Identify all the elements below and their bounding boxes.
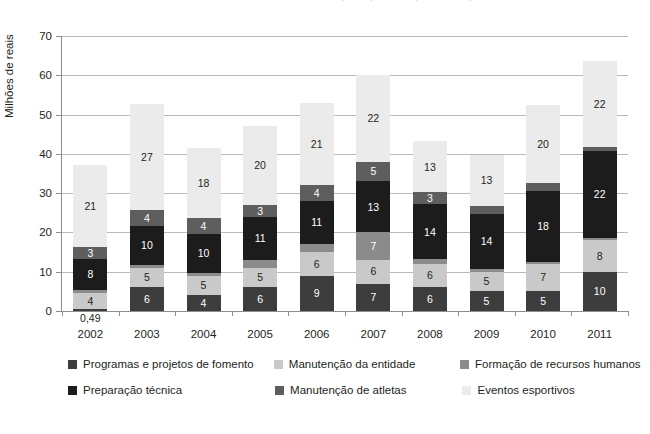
bar-segment[interactable]: 22 xyxy=(583,151,617,237)
x-tick-label-2004: 2004 xyxy=(176,328,232,340)
bar-segment[interactable]: 4 xyxy=(130,210,164,226)
bar-segment[interactable]: 3 xyxy=(73,247,107,259)
legend-label: Eventos esportivos xyxy=(477,384,574,396)
bar-segment[interactable]: 4 xyxy=(73,293,107,309)
bar-segment[interactable]: 13 xyxy=(470,155,504,206)
bar-segment-label: 5 xyxy=(257,272,263,283)
bar-segment-label: 6 xyxy=(144,294,150,305)
x-tick-mark xyxy=(119,311,120,316)
legend-item[interactable]: Preparação técnica xyxy=(68,384,275,396)
bar-segment[interactable]: 7 xyxy=(356,284,390,312)
x-tick-label-2003: 2003 xyxy=(119,328,175,340)
bar-segment[interactable]: 5 xyxy=(470,291,504,311)
bar-segment[interactable]: 4 xyxy=(300,185,334,201)
bar-segment-label: 20 xyxy=(254,160,266,171)
bar-segment[interactable]: 13 xyxy=(356,181,390,232)
bar-segment[interactable]: 27 xyxy=(130,104,164,210)
y-tick-mark-30 xyxy=(56,193,61,194)
bar-segment[interactable]: 10 xyxy=(187,234,221,273)
bar-group-2008[interactable]: 133141,1866 xyxy=(413,141,447,311)
bar-segment-label: 10 xyxy=(594,286,606,297)
x-tick-mark xyxy=(62,311,63,316)
bar-segment[interactable]: 4 xyxy=(187,295,221,311)
bar-segment[interactable]: 3 xyxy=(243,205,277,217)
bar-segment[interactable]: 14 xyxy=(413,204,447,259)
bar-segment[interactable]: 6 xyxy=(300,252,334,276)
bar-segment[interactable]: 2 xyxy=(243,260,277,268)
bar-segment[interactable]: 18 xyxy=(526,191,560,262)
bar-segment[interactable]: 10 xyxy=(583,272,617,311)
bar-segment-label: 7 xyxy=(540,272,546,283)
bar-segment-label: 5 xyxy=(540,296,546,307)
x-tick-label-2002: 2002 xyxy=(62,328,118,340)
bar-segment[interactable]: 5 xyxy=(356,162,390,182)
bar-segment[interactable]: 0,49 xyxy=(73,309,107,311)
bar-segment-label: 7 xyxy=(370,241,376,252)
y-tick-mark-0 xyxy=(56,311,61,312)
bar-segment-label: 4 xyxy=(201,221,207,232)
bar-segment[interactable]: 13 xyxy=(413,141,447,192)
bar-segment[interactable]: 20 xyxy=(526,105,560,184)
legend-item[interactable]: Manutenção da entidade xyxy=(274,358,460,370)
legend-item[interactable]: Formação de recursos humanos xyxy=(460,358,640,370)
bar-segment[interactable]: 8 xyxy=(583,240,617,271)
legend-item[interactable]: Programas e projetos de fomento xyxy=(68,358,274,370)
bar-segment[interactable]: 21 xyxy=(73,165,107,248)
y-tick-label-0: 0 xyxy=(26,305,52,317)
bar-segment[interactable]: 5 xyxy=(187,276,221,296)
bar-group-2002[interactable]: 21380,7540,49 xyxy=(73,165,107,311)
bar-segment[interactable]: 22 xyxy=(356,75,390,161)
bar-segment-label: 3 xyxy=(87,248,93,259)
bar-group-2003[interactable]: 274100,6856 xyxy=(130,104,164,311)
bar-segment[interactable]: 8 xyxy=(73,259,107,290)
bar-segment[interactable]: 6 xyxy=(356,260,390,284)
bar-group-2011[interactable]: 22220,64810 xyxy=(583,61,617,311)
legend-item[interactable]: Manutenção de atletas xyxy=(275,384,462,396)
bar-segment[interactable]: 6 xyxy=(413,264,447,288)
bar-segment[interactable]: 11 xyxy=(243,217,277,260)
bar-segment[interactable]: 10 xyxy=(130,226,164,265)
bar-segment[interactable]: 7 xyxy=(526,264,560,292)
bar-segment[interactable]: 2 xyxy=(526,183,560,191)
bar-segment[interactable]: 3 xyxy=(413,192,447,204)
bar-segment[interactable]: 6 xyxy=(130,287,164,311)
bar-group-2004[interactable]: 184100,5954 xyxy=(187,148,221,311)
bar-group-2005[interactable]: 20311256 xyxy=(243,126,277,311)
x-tick-label-2006: 2006 xyxy=(289,328,345,340)
bar-segment-label: 4 xyxy=(314,188,320,199)
bar-group-2007[interactable]: 22513767 xyxy=(356,75,390,311)
legend-item[interactable]: Eventos esportivos xyxy=(462,384,640,396)
bar-segment[interactable]: 5 xyxy=(470,272,504,292)
x-tick-label-2008: 2008 xyxy=(402,328,458,340)
bar-segment[interactable]: 6 xyxy=(243,287,277,311)
bar-segment[interactable]: 4 xyxy=(187,218,221,234)
bar-segment[interactable]: 5 xyxy=(526,291,560,311)
bar-segment-label: 20 xyxy=(537,139,549,150)
bar-group-2006[interactable]: 21411269 xyxy=(300,103,334,311)
bar-segment[interactable]: 2 xyxy=(470,206,504,214)
bar-group-2009[interactable]: 132140,8155 xyxy=(470,155,504,311)
y-tick-label-10: 10 xyxy=(26,266,52,278)
bar-segment[interactable]: 14 xyxy=(470,214,504,269)
bar-segment[interactable]: 5 xyxy=(130,268,164,288)
bar-segment-label: 11 xyxy=(255,233,266,244)
x-tick-mark xyxy=(628,311,629,316)
bar-segment[interactable]: 5 xyxy=(243,268,277,288)
x-tick-mark xyxy=(571,311,572,316)
bar-segment[interactable]: 21 xyxy=(300,103,334,186)
chart-page: Investimentos do Ministério do Esporte p… xyxy=(0,0,650,434)
bar-segment-label: 6 xyxy=(427,270,433,281)
y-tick-label-40: 40 xyxy=(26,148,52,160)
bar-group-2010[interactable]: 202180,5275 xyxy=(526,105,560,311)
bar-segment-label: 13 xyxy=(367,202,379,213)
y-tick-mark-60 xyxy=(56,75,61,76)
bar-segment[interactable]: 20 xyxy=(243,126,277,205)
bar-segment[interactable]: 2 xyxy=(300,244,334,252)
bar-segment[interactable]: 9 xyxy=(300,276,334,311)
bar-segment[interactable]: 22 xyxy=(583,61,617,147)
bar-segment[interactable]: 18 xyxy=(187,148,221,219)
bar-segment[interactable]: 7 xyxy=(356,232,390,260)
bar-segment[interactable]: 11 xyxy=(300,201,334,244)
legend-row-2: Preparação técnicaManutenção de atletasE… xyxy=(68,384,640,410)
bar-segment[interactable]: 6 xyxy=(413,287,447,311)
